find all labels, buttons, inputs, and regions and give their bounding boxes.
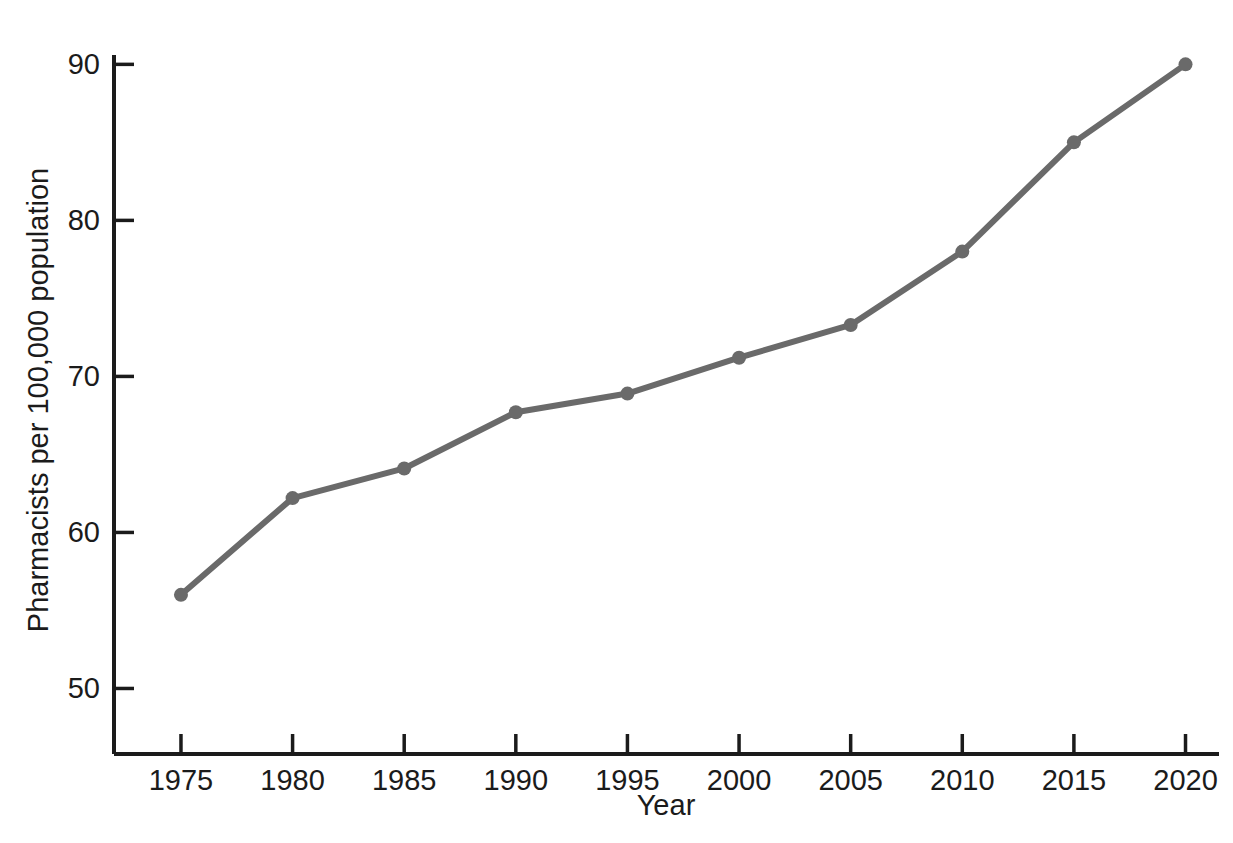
y-tick-label-50: 50 [68,672,100,704]
data-point-1995 [620,387,634,401]
data-point-1990 [509,405,523,419]
data-point-1980 [286,491,300,505]
x-tick-label-2020: 2020 [1153,764,1218,796]
data-point-1975 [174,588,188,602]
data-point-2000 [732,351,746,365]
data-point-2020 [1179,57,1193,71]
y-tick-label-60: 60 [68,516,100,548]
x-tick-label-1975: 1975 [149,764,214,796]
y-tick-label-80: 80 [68,204,100,236]
y-tick-label-90: 90 [68,48,100,80]
x-axis-title: Year [637,789,696,821]
x-tick-label-1990: 1990 [484,764,549,796]
y-tick-label-70: 70 [68,360,100,392]
x-tick-label-1980: 1980 [260,764,325,796]
data-point-2005 [844,318,858,332]
chart-container: 5060708090 19751980198519901995200020052… [0,0,1233,843]
data-point-2015 [1067,135,1081,149]
x-tick-label-2000: 2000 [707,764,772,796]
x-tick-label-2010: 2010 [930,764,995,796]
x-tick-label-2005: 2005 [818,764,883,796]
y-axis-title: Pharmacists per 100,000 population [22,168,54,632]
chart-background [0,0,1233,843]
x-tick-label-1985: 1985 [372,764,437,796]
line-chart: 5060708090 19751980198519901995200020052… [0,0,1233,843]
x-tick-label-2015: 2015 [1042,764,1107,796]
data-point-2010 [955,245,969,259]
data-point-1985 [397,461,411,475]
